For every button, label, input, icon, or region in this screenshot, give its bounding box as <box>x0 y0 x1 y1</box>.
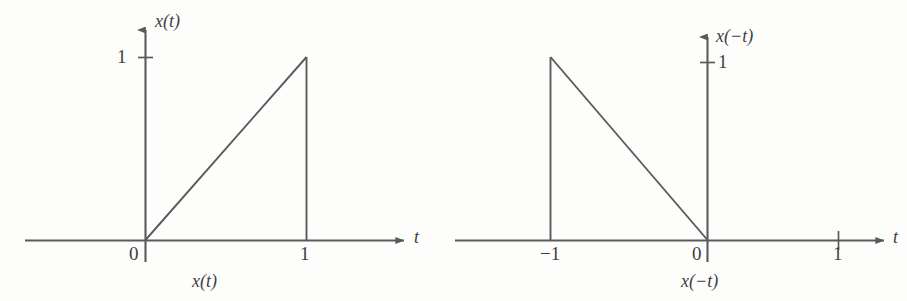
left-plot-group <box>25 30 404 262</box>
left-y-tick-label-1: 1 <box>117 47 127 66</box>
right-y-tick-label-1: 1 <box>718 52 728 71</box>
left-plot-caption: x(t) <box>192 272 217 290</box>
left-signal-ramp <box>146 57 307 240</box>
right-signal-ramp <box>551 57 708 240</box>
figure-container: x(t) 1 0 1 t x(t) x(−t) 1 0 −1 1 t x(−t) <box>0 0 907 301</box>
right-x-axis-label: t <box>893 228 898 246</box>
left-x-tick-label-1: 1 <box>300 244 310 263</box>
right-plot-caption: x(−t) <box>681 272 718 290</box>
right-origin-label: 0 <box>692 244 702 263</box>
right-x-tick-label-negative-1: −1 <box>540 244 560 263</box>
right-plot-group <box>455 37 884 262</box>
right-x-tick-label-1: 1 <box>833 244 843 263</box>
left-y-axis-label: x(t) <box>155 12 180 30</box>
right-y-axis-label: x(−t) <box>716 27 753 45</box>
left-x-axis-label: t <box>414 228 419 246</box>
left-origin-label: 0 <box>129 244 139 263</box>
